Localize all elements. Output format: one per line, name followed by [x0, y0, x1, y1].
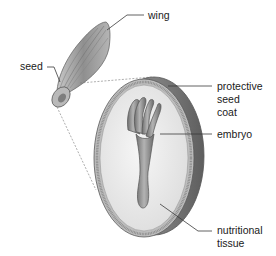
- protective-seed-coat-line-2: seed: [217, 93, 240, 106]
- protective-seed-coat-line-3: coat: [217, 106, 237, 119]
- wing-label: wing: [148, 9, 170, 22]
- seed-cross-section: [94, 77, 204, 237]
- protective-seed-coat-line-1: protective: [217, 80, 263, 93]
- wing-illustration: [57, 22, 110, 96]
- seed-label: seed: [20, 60, 43, 73]
- nutritional-tissue-line-2: tissue: [217, 237, 244, 250]
- embryo-label: embryo: [217, 128, 252, 141]
- seed-leader: [47, 67, 60, 82]
- wing-leader: [107, 15, 144, 30]
- nutritional-tissue-line-1: nutritional: [217, 224, 263, 237]
